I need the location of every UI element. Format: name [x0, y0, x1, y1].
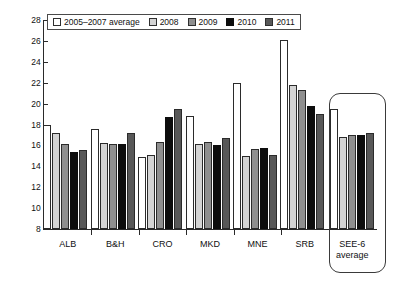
category-label: B&H: [91, 239, 138, 250]
x-axis-tick: [139, 230, 140, 235]
category-label: SEE-6average: [329, 239, 376, 261]
category-label: MNE: [234, 239, 281, 250]
bar: [147, 155, 155, 229]
y-axis-tick-label: 20: [19, 100, 41, 109]
category-label-line: SRB: [281, 239, 328, 250]
bar: [242, 156, 250, 229]
bar: [165, 117, 173, 229]
bar-group: [330, 20, 374, 229]
bar: [366, 133, 374, 229]
bar: [269, 155, 277, 229]
category-label: CRO: [139, 239, 186, 250]
x-axis-tick: [186, 230, 187, 235]
bar: [109, 144, 117, 229]
bar-group: [280, 20, 324, 229]
bar: [251, 149, 259, 229]
bar: [233, 83, 241, 229]
x-axis-tick: [281, 230, 282, 235]
bar: [289, 85, 297, 229]
category-label-line: CRO: [139, 239, 186, 250]
category-label-line: MNE: [234, 239, 281, 250]
bar: [222, 138, 230, 229]
bar-group: [43, 20, 87, 229]
bar: [127, 133, 135, 229]
bar: [330, 109, 338, 229]
y-axis-tick-label: 18: [19, 121, 41, 130]
category-label-line: B&H: [91, 239, 138, 250]
bar-chart: 810121416182022242628 2005–2007 average2…: [0, 0, 393, 288]
bar-group: [186, 20, 230, 229]
bar: [348, 135, 356, 229]
bar: [118, 144, 126, 229]
bar: [339, 137, 347, 229]
bar: [213, 145, 221, 229]
bar-group: [91, 20, 135, 229]
bar: [138, 157, 146, 229]
y-axis-tick-label: 24: [19, 58, 41, 67]
category-label: ALB: [44, 239, 91, 250]
bar: [79, 150, 87, 229]
bar: [186, 116, 194, 229]
bar: [70, 152, 78, 229]
y-axis-tick-label: 12: [19, 183, 41, 192]
category-label-line: ALB: [44, 239, 91, 250]
bar: [298, 90, 306, 230]
category-label-line: MKD: [186, 239, 233, 250]
x-axis-tick: [329, 230, 330, 235]
bar: [195, 144, 203, 229]
bar: [307, 106, 315, 229]
bar-group: [138, 20, 182, 229]
bar: [61, 144, 69, 229]
y-axis-tick-label: 14: [19, 162, 41, 171]
y-axis-tick-label: 28: [19, 16, 41, 25]
plot-area: [44, 20, 376, 229]
category-label-line: SEE-6: [329, 239, 376, 250]
bar: [316, 114, 324, 229]
bar-group: [233, 20, 277, 229]
bar: [357, 135, 365, 229]
x-axis-tick: [234, 230, 235, 235]
y-axis-tick-label: 26: [19, 37, 41, 46]
bar: [174, 109, 182, 229]
y-axis-tick-label: 16: [19, 141, 41, 150]
bar: [280, 40, 288, 229]
x-axis-tick: [91, 230, 92, 235]
bar: [100, 143, 108, 229]
category-label-line: average: [329, 250, 376, 261]
bar: [204, 142, 212, 229]
bar: [260, 148, 268, 230]
y-axis-tick-label: 22: [19, 79, 41, 88]
bar: [52, 133, 60, 229]
bar: [43, 125, 51, 229]
y-axis-tick-label: 10: [19, 204, 41, 213]
y-axis-tick: [44, 229, 48, 230]
category-label: MKD: [186, 239, 233, 250]
bar: [156, 142, 164, 229]
bar: [91, 129, 99, 229]
y-axis-tick-label: 8: [19, 225, 41, 234]
category-label: SRB: [281, 239, 328, 250]
x-axis-line: [43, 229, 377, 230]
